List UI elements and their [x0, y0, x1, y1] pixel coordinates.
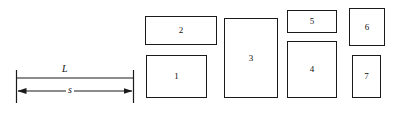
- rectangle-7: 7: [352, 55, 381, 98]
- dimension-label-span: s: [66, 85, 74, 95]
- rectangle-label: 6: [365, 23, 370, 32]
- rectangle-5: 5: [287, 10, 337, 33]
- rectangle-4: 4: [287, 41, 337, 98]
- rectangle-6: 6: [349, 8, 385, 46]
- rectangle-1: 1: [146, 55, 207, 98]
- dimension-label-length: L: [60, 64, 70, 74]
- rectangle-packing-diagram: L s 1234567: [0, 0, 401, 114]
- rectangle-label: 4: [310, 65, 315, 74]
- rectangle-label: 2: [179, 26, 184, 35]
- rectangle-2: 2: [145, 16, 217, 45]
- rectangle-label: 5: [310, 17, 315, 26]
- rectangle-label: 7: [364, 72, 369, 81]
- rectangle-3: 3: [224, 18, 278, 98]
- rectangle-label: 3: [249, 54, 254, 63]
- rectangle-label: 1: [174, 72, 179, 81]
